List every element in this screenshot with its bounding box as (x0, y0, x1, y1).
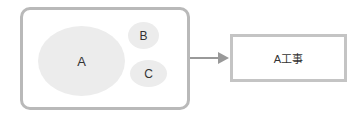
node-a-label: A (77, 54, 86, 69)
node-a: A (38, 26, 125, 96)
arrow-connector-line (190, 57, 220, 59)
node-b-label: B (139, 29, 147, 43)
target-box-label: A工事 (274, 50, 303, 66)
target-box: A工事 (230, 34, 347, 82)
node-c-label: C (144, 67, 153, 81)
arrowhead-icon (218, 52, 229, 64)
node-b: B (128, 22, 159, 49)
node-c: C (130, 60, 167, 87)
